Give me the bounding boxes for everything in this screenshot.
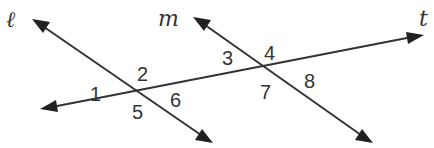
angle-label-7: 7 xyxy=(260,81,271,103)
angle-label-4: 4 xyxy=(264,42,275,64)
arrowhead-icon xyxy=(193,17,211,31)
angle-label-1: 1 xyxy=(90,83,101,105)
angle-label-2: 2 xyxy=(137,63,148,85)
angle-label-6: 6 xyxy=(170,89,181,111)
arrowhead-icon xyxy=(195,129,213,143)
line-m-segment xyxy=(205,25,361,135)
arrowhead-icon xyxy=(32,19,50,33)
angle-label-8: 8 xyxy=(304,70,315,92)
line-m xyxy=(193,17,373,143)
arrowhead-icon xyxy=(406,32,424,44)
angle-label-5: 5 xyxy=(132,101,143,123)
transversal-diagram: ℓ m t 1 2 3 4 5 6 7 8 xyxy=(0,0,434,148)
angle-label-3: 3 xyxy=(222,47,233,69)
label-t: t xyxy=(419,6,428,31)
label-m: m xyxy=(158,6,179,31)
arrowhead-icon xyxy=(40,100,58,112)
label-l: ℓ xyxy=(6,7,16,32)
arrowhead-icon xyxy=(355,129,373,143)
line-l-segment xyxy=(44,27,201,135)
